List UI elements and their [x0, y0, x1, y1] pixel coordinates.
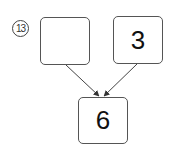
arrow-right-to-result	[104, 64, 137, 96]
result-box-value: 6	[96, 105, 110, 136]
result-box: 6	[78, 97, 128, 144]
input-box-blank[interactable]	[40, 17, 90, 65]
input-box-known-value: 3	[131, 25, 145, 56]
arrow-left-to-result	[66, 65, 99, 96]
input-box-known: 3	[113, 16, 163, 64]
